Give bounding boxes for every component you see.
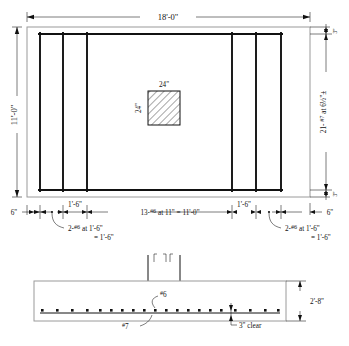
right-bottom-3in-label: 3" bbox=[332, 191, 338, 196]
clear-cover-label: 3" clear bbox=[239, 322, 262, 330]
section-depth-dimension: 2'-8" bbox=[286, 281, 324, 321]
right-group-note-line1: 2-#6 at 1'-6" bbox=[285, 223, 320, 233]
right-top-3in-label: 3" bbox=[332, 28, 338, 33]
section-depth-label: 2'-8" bbox=[310, 298, 324, 306]
plan-view-group: 18'-0" 11'-0" 24" 24" bbox=[9, 12, 338, 200]
right-end-6in-label: 6" bbox=[327, 209, 334, 217]
right-group-note-line2: = 1'-6" bbox=[311, 234, 331, 242]
center-span-label: 13-#6 at 11" = 11'-0" bbox=[140, 207, 199, 217]
footing-section-outline bbox=[34, 281, 286, 321]
left-group-note-line2: = 1'-6" bbox=[94, 234, 114, 242]
section-top-bar-label: #6 bbox=[160, 289, 167, 299]
top-dimension-18ft: 18'-0" bbox=[27, 12, 310, 22]
bottom-dimension-chain-group: 6" 6" 1'-6" 1'-6" 13-#6 at 11" = 11'-0" … bbox=[11, 201, 334, 242]
dowel-hooks bbox=[154, 254, 173, 262]
section-view-group: #6 #7 3" clear 2'-8" bbox=[34, 254, 324, 331]
left-dimension-11ft: 11'-0" bbox=[9, 27, 22, 197]
section-transverse-bars bbox=[41, 309, 280, 312]
right-group-dimension-label: 1'-6" bbox=[237, 201, 251, 209]
left-dimension-label: 11'-0" bbox=[9, 105, 19, 125]
left-group-note-line1: 2-#6 at 1'-6" bbox=[68, 223, 103, 233]
column-section-hatched bbox=[148, 91, 180, 125]
section-bottom-bar-label: #7 bbox=[122, 321, 129, 331]
column-height-label: 24" bbox=[135, 103, 143, 113]
engineering-drawing-svg: 18'-0" 11'-0" 24" 24" bbox=[0, 0, 349, 346]
right-bar-note: 21- #7 at 6½"± bbox=[318, 91, 328, 133]
left-end-6in-label: 6" bbox=[11, 209, 18, 217]
column-width-label: 24" bbox=[159, 81, 169, 89]
right-dimension-chain: 3" 3" 21- #7 at 6½"± bbox=[310, 24, 338, 200]
drawing-canvas: 18'-0" 11'-0" 24" 24" bbox=[0, 0, 349, 346]
left-group-dimension-label: 1'-6" bbox=[68, 201, 82, 209]
top-dimension-label: 18'-0" bbox=[158, 12, 179, 22]
